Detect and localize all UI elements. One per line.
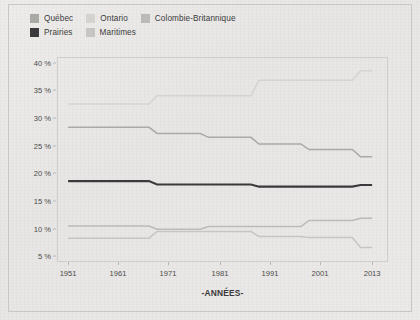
legend-swatch-icon [30, 28, 39, 37]
x-axis-tick-mark [372, 262, 373, 265]
y-axis-tick-label: 15 % [34, 197, 51, 206]
legend-item-qu-bec[interactable]: Québec [30, 14, 73, 23]
series-line-colombie-britannique [68, 218, 372, 229]
x-axis-tick-mark [68, 262, 69, 265]
y-axis-tick-mark [53, 256, 56, 257]
chart-page: QuébecOntarioColombie-BritanniquePrairie… [0, 0, 420, 320]
chart-lines [57, 57, 388, 262]
series-line-qu-bec [68, 127, 372, 156]
x-axis-title: -ANNÉES- [57, 288, 388, 298]
y-axis-tick-label: 40 % [34, 58, 51, 67]
plot-area: 40 %35 %30 %25 %20 %15 %10 %5 %195119611… [57, 57, 388, 262]
legend-row: PrairiesMaritimes [30, 28, 236, 37]
x-axis-tick-mark [168, 262, 169, 265]
y-axis-tick-mark [53, 117, 56, 118]
series-line-prairies [68, 181, 372, 187]
x-axis-tick-label: 1971 [160, 269, 177, 278]
legend-swatch-icon [141, 14, 150, 23]
x-axis-tick-mark [320, 262, 321, 265]
y-axis-tick-mark [53, 145, 56, 146]
y-axis-tick-label: 35 % [34, 86, 51, 95]
legend-item-maritimes[interactable]: Maritimes [86, 28, 136, 37]
legend-swatch-icon [86, 28, 95, 37]
legend-row: QuébecOntarioColombie-Britannique [30, 14, 236, 23]
legend-item-label: Colombie-Britannique [155, 14, 236, 23]
x-axis-tick-label: 1951 [60, 269, 77, 278]
legend-item-ontario[interactable]: Ontario [86, 14, 128, 23]
x-axis-tick-mark [270, 262, 271, 265]
y-axis-tick-mark [53, 201, 56, 202]
x-axis-tick-label: 2013 [364, 269, 381, 278]
y-axis-tick-mark [53, 228, 56, 229]
x-axis-tick-label: 1961 [110, 269, 127, 278]
y-axis-tick-label: 25 % [34, 141, 51, 150]
y-axis-tick-label: 5 % [38, 252, 51, 261]
x-axis-tick-label: 1981 [212, 269, 229, 278]
legend-item-label: Ontario [100, 14, 128, 23]
legend-item-label: Prairies [44, 28, 73, 37]
y-axis-tick-label: 10 % [34, 224, 51, 233]
y-axis-tick-mark [53, 173, 56, 174]
legend-item-colombie-britannique[interactable]: Colombie-Britannique [141, 14, 236, 23]
x-axis-tick-mark [118, 262, 119, 265]
y-axis-tick-mark [53, 90, 56, 91]
y-axis-tick-label: 20 % [34, 169, 51, 178]
legend-swatch-icon [86, 14, 95, 23]
x-axis-tick-label: 1991 [262, 269, 279, 278]
chart-legend: QuébecOntarioColombie-BritanniquePrairie… [30, 14, 236, 37]
legend-item-label: Maritimes [100, 28, 136, 37]
series-line-maritimes [68, 232, 372, 248]
legend-item-prairies[interactable]: Prairies [30, 28, 73, 37]
y-axis-tick-label: 30 % [34, 113, 51, 122]
x-axis-tick-mark [220, 262, 221, 265]
legend-swatch-icon [30, 14, 39, 23]
series-line-ontario [68, 71, 372, 104]
legend-item-label: Québec [44, 14, 73, 23]
y-axis-tick-mark [53, 62, 56, 63]
x-axis-tick-label: 2001 [312, 269, 329, 278]
